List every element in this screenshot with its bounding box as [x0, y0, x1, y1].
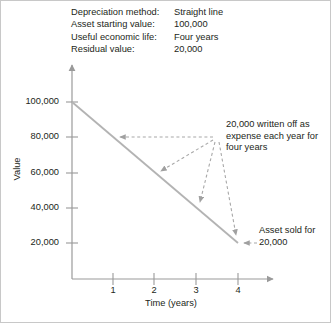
x-axis-title: Time (years): [105, 298, 237, 308]
x-tick-label-3: 3: [186, 285, 206, 295]
y-tick-label-40000: 40,000: [3, 202, 59, 212]
writeoff-arrow-year4: [219, 142, 236, 235]
x-tick-label-1: 1: [103, 285, 123, 295]
y-tick-label-100000: 100,000: [3, 96, 59, 106]
annotation-asset-sold: Asset sold for 20,000: [259, 225, 331, 248]
annotation-writeoff: 20,000 written off as expense each year …: [226, 119, 330, 154]
y-axis-title: Value: [12, 139, 22, 199]
x-tick-label-2: 2: [144, 285, 164, 295]
depreciation-chart: [1, 1, 331, 323]
writeoff-arrows: [120, 137, 236, 235]
y-tick-label-20000: 20,000: [3, 237, 59, 247]
depreciation-line: [72, 102, 238, 243]
writeoff-arrow-year2: [161, 140, 213, 171]
figure-container: Depreciation method: Straight line Asset…: [0, 0, 331, 323]
writeoff-arrow-year3: [200, 142, 215, 202]
x-tick-label-4: 4: [228, 285, 248, 295]
